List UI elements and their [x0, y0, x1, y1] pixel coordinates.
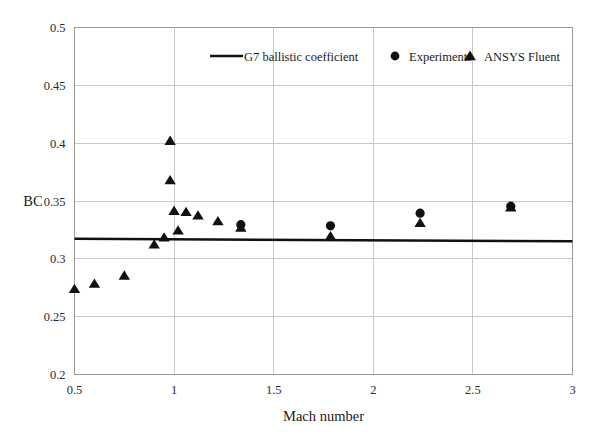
x-tick-label: 2.5 — [465, 383, 481, 397]
y-tick-label: 0.4 — [50, 137, 66, 151]
data-point-circle — [326, 221, 335, 230]
x-tick-label: 2 — [370, 383, 376, 397]
legend-label: G7 ballistic coefficient — [244, 50, 359, 64]
legend-circle-icon — [391, 52, 400, 61]
y-tick-label: 0.35 — [44, 195, 66, 209]
y-tick-label: 0.45 — [44, 79, 66, 93]
x-tick-label: 1 — [171, 383, 177, 397]
y-axis-title: BC — [23, 193, 42, 209]
scatter-chart: 0.511.522.53 0.20.250.30.350.40.450.5 Ma… — [0, 0, 599, 434]
legend-label: ANSYS Fluent — [484, 50, 561, 64]
data-point-circle — [416, 209, 425, 218]
y-tick-label: 0.2 — [50, 368, 66, 382]
y-tick-label: 0.25 — [44, 310, 66, 324]
y-tick-label: 0.3 — [50, 252, 66, 266]
chart-background — [0, 0, 599, 434]
x-tick-label: 0.5 — [67, 383, 83, 397]
chart-figure: 0.511.522.53 0.20.250.30.350.40.450.5 Ma… — [0, 0, 599, 434]
x-tick-label: 1.5 — [266, 383, 282, 397]
legend-label: Experiments — [409, 50, 472, 64]
x-tick-label: 3 — [569, 383, 575, 397]
x-axis-title: Mach number — [283, 408, 364, 424]
y-tick-label: 0.5 — [50, 21, 66, 35]
